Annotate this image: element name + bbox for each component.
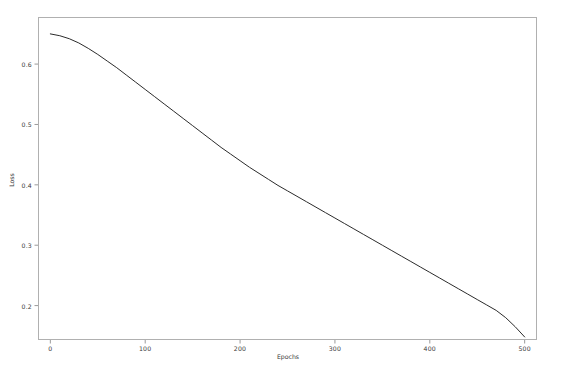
y-axis-label: Loss bbox=[8, 173, 15, 187]
y-tick-label: 0.6 bbox=[10, 61, 32, 68]
y-tick-label: 0.2 bbox=[10, 302, 32, 309]
plot-svg bbox=[0, 0, 562, 372]
x-tick-label: 200 bbox=[234, 345, 246, 352]
y-tick-label: 0.3 bbox=[10, 242, 32, 249]
x-tick-label: 500 bbox=[518, 345, 530, 352]
loss-line-series bbox=[50, 34, 524, 337]
x-axis-label: Epochs bbox=[277, 353, 299, 360]
x-tick-label: 0 bbox=[48, 345, 52, 352]
x-tick-label: 400 bbox=[424, 345, 436, 352]
figure-canvas: 0.20.30.40.50.6 0100200300400500 Loss Ep… bbox=[0, 0, 562, 372]
y-tick-label: 0.5 bbox=[10, 121, 32, 128]
x-tick-label: 100 bbox=[139, 345, 151, 352]
x-tick-label: 300 bbox=[329, 345, 341, 352]
axis-ticks bbox=[35, 64, 525, 343]
